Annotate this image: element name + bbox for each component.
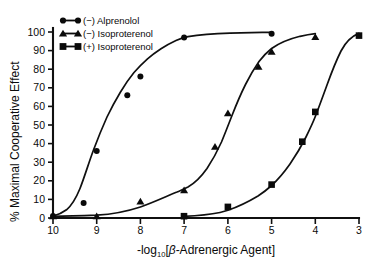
legend-item-plus-isoproterenol[interactable]: (+) Isoproterenol [60,41,153,52]
y-tick-label: 30 [33,156,45,168]
legend: (−) Alprenolol (−) Isoproterenol (+) Iso… [59,15,153,52]
curve-alprenolol [53,32,272,216]
x-title-subscript: 10 [157,250,165,259]
circle-marker-icon [75,17,81,23]
y-tick-label: 20 [33,174,45,186]
x-title-prefix: -log [137,243,157,257]
x-title-bracket-close: ] [272,243,275,257]
x-tick-label: 10 [47,224,59,236]
x-tick-label: 7 [181,224,187,236]
x-tick-label: 8 [137,224,143,236]
legend-label: (−) Alprenolol [83,15,139,26]
y-tick-label: 40 [33,137,45,149]
x-tick-label: 6 [225,224,231,236]
x-tick-label: 9 [94,224,100,236]
legend-item-minus-isoproterenol[interactable]: (−) Isoproterenol [59,28,153,39]
x-axis-title: -log10[β-Adrenergic Agent] [137,243,275,259]
y-axis-title: % Maximal Cooperative Effect [8,61,22,222]
x-axis-tick-labels: 10 9 8 7 6 5 4 3 [47,224,362,236]
figure-container: % Maximal Cooperative Effect 0 10 20 30 … [0,0,376,264]
y-tick-label: 10 [33,193,45,205]
legend-item-alprenolol[interactable]: (−) Alprenolol [60,15,139,26]
square-marker-icon [60,43,67,50]
x-tick-label: 3 [356,224,362,236]
y-tick-label: 80 [33,63,45,75]
dose-response-chart: % Maximal Cooperative Effect 0 10 20 30 … [0,0,376,264]
y-tick-label: 50 [33,119,45,131]
curve-plus-isoproterenol [184,33,359,216]
x-title-rest: -Adrenergic Agent [176,243,273,257]
y-axis-tick-labels: 0 10 20 30 40 50 60 70 80 90 100 [27,26,45,224]
series-alprenolol-markers [50,31,275,219]
series-plus-isoproterenol-markers [181,32,363,219]
y-tick-label: 90 [33,44,45,56]
series-minus-isoproterenol-markers [49,33,319,219]
y-tick-label: 70 [33,81,45,93]
x-tick-label: 5 [269,224,275,236]
legend-label: (+) Isoproterenol [83,41,153,52]
square-marker-icon [75,43,82,50]
svg-text:-log10[β-Adrenergic Agent]: -log10[β-Adrenergic Agent] [137,243,275,259]
x-tick-label: 4 [312,224,318,236]
y-tick-label: 60 [33,100,45,112]
x-title-beta: β [168,243,176,257]
y-tick-label: 100 [27,26,45,38]
y-tick-label: 0 [39,212,45,224]
circle-marker-icon [60,17,66,23]
legend-label: (−) Isoproterenol [83,28,153,39]
